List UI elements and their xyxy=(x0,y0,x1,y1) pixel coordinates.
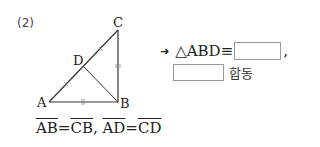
segment-cd-label: CD xyxy=(138,119,162,137)
equals-sign: = xyxy=(58,119,71,137)
separator: , xyxy=(93,119,98,137)
congruence-suffix: 합동 xyxy=(229,63,253,82)
segment-ad-label: AD xyxy=(103,119,126,137)
arrow-right-icon: ➜ xyxy=(160,45,169,58)
congruence-prefix: △ABD≡ xyxy=(175,42,233,60)
given-conditions: AB=CB, AD=CD xyxy=(36,119,161,137)
comma: , xyxy=(283,42,288,60)
vertex-a-label: A xyxy=(36,95,47,110)
congruence-condition: 합동 xyxy=(173,63,253,82)
segment-cb-label: CB xyxy=(70,119,93,137)
segment-ab-label: AB xyxy=(36,119,58,137)
congruence-statement: ➜ △ABD≡ , xyxy=(160,42,288,60)
segment-db xyxy=(83,66,118,102)
vertex-b-label: B xyxy=(120,96,130,111)
vertex-c-label: C xyxy=(113,15,123,30)
answer-blank-condition[interactable] xyxy=(173,64,224,81)
vertex-d-label: D xyxy=(73,53,83,68)
equals-sign: = xyxy=(125,119,138,137)
answer-blank-triangle[interactable] xyxy=(234,42,281,60)
